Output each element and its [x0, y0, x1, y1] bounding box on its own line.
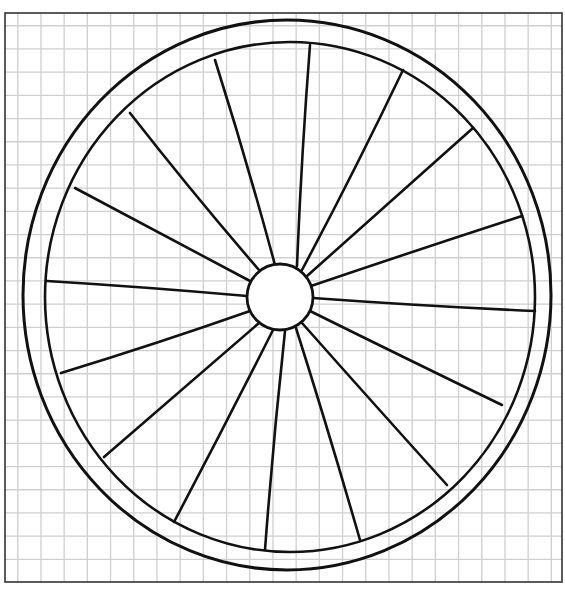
hub	[247, 264, 313, 330]
spoke	[174, 330, 273, 522]
spoke	[307, 128, 473, 276]
spoke	[61, 311, 250, 373]
spoke	[265, 331, 285, 550]
spoke	[104, 323, 259, 457]
wagon-wheel-drawing	[0, 0, 565, 596]
spoke	[302, 70, 403, 270]
spoke	[297, 45, 310, 266]
spoke	[47, 281, 247, 296]
spoke	[302, 323, 447, 485]
spoke	[310, 311, 502, 405]
spoke	[296, 328, 360, 540]
